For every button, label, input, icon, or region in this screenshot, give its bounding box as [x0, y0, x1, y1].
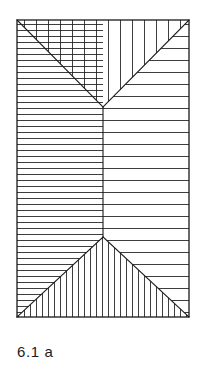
hatched-rectangle-diagram: [0, 0, 205, 379]
figure-caption: 6.1 a: [17, 344, 53, 359]
region-middle-left-band: [17, 107, 103, 237]
region-middle-right-band: [103, 107, 189, 237]
figure-container: 6.1 a: [0, 0, 205, 379]
